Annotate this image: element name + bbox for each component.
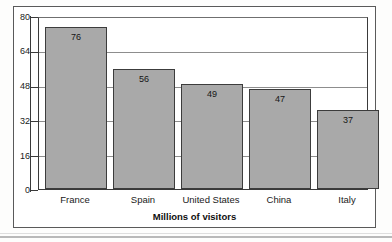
x-axis-category-labels: France Spain United States China Italy: [38, 191, 368, 211]
y-tick-mark-48: [31, 87, 38, 88]
y-tick-label-80: 80: [4, 13, 30, 22]
bar-value-spain: 56: [114, 74, 174, 84]
y-axis-spine: [30, 16, 31, 192]
bar-value-france: 76: [46, 32, 106, 42]
y-tick-label-0: 0: [4, 186, 30, 195]
y-tick-label-48: 48: [4, 82, 30, 91]
x-category-spain: Spain: [106, 194, 180, 206]
y-tick-label-32: 32: [4, 117, 30, 126]
bar-value-united-states: 49: [182, 89, 242, 99]
bar-france[interactable]: 76: [45, 27, 107, 189]
x-category-united-states: United States: [174, 194, 248, 206]
x-category-france: France: [38, 194, 112, 206]
y-tick-mark-0: [31, 190, 38, 191]
bar-spain[interactable]: 56: [113, 69, 175, 189]
y-axis-labels: 80 64 48 32 16 0: [0, 0, 30, 242]
y-tick-mark-32: [31, 121, 38, 122]
bar-china[interactable]: 47: [249, 89, 311, 189]
y-tick-label-16: 16: [4, 152, 30, 161]
x-category-china: China: [242, 194, 316, 206]
scan-edge-dark: [0, 236, 392, 238]
bar-value-china: 47: [250, 94, 310, 104]
y-tick-mark-64: [31, 52, 38, 53]
bar-chart-figure: 80 64 48 32 16 0 76 56 49 47 37: [0, 0, 392, 242]
bar-value-italy: 37: [318, 115, 378, 125]
x-axis-title: Millions of visitors: [13, 211, 376, 223]
y-tick-mark-80: [31, 17, 38, 18]
bars-layer: 76 56 49 47 37: [39, 18, 367, 189]
y-tick-label-64: 64: [4, 47, 30, 56]
y-tick-mark-16: [31, 156, 38, 157]
bar-united-states[interactable]: 49: [181, 84, 243, 189]
scan-edge-light: [0, 233, 392, 234]
x-category-italy: Italy: [310, 194, 384, 206]
bar-italy[interactable]: 37: [317, 110, 379, 189]
